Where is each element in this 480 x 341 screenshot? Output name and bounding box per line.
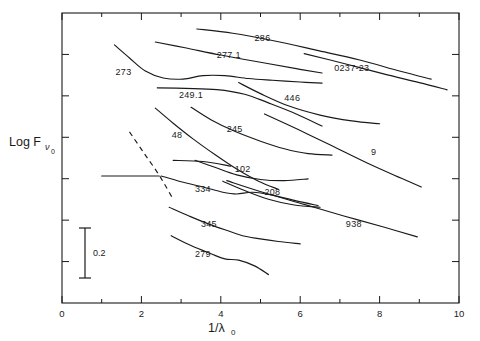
x-axis-label-main: 1/λ [208,321,225,335]
x-tick-label: 6 [298,308,303,319]
scale-bar: 0.2 [79,228,106,278]
curve-48 [155,108,278,189]
curve-label-446: 446 [284,93,300,103]
curve-label-938: 938 [346,219,362,229]
curves-group [102,29,447,275]
curve-label-273: 273 [116,67,132,77]
curve-label-334: 334 [195,184,211,194]
curve-labels-group: 2860237-23277.1273249.144624548910233420… [116,33,377,260]
x-tick-labels: 0246810 [59,308,464,319]
curve-345 [169,207,300,244]
curve-label-279: 279 [195,249,211,259]
x-tick-label: 8 [377,308,382,319]
y-axis-label-sub-zero: 0 [51,148,55,155]
curve-label-9: 9 [371,147,376,157]
curve-label-345: 345 [201,219,217,229]
y-axis-label: Log F ν 0 [9,135,55,155]
y-axis-label-main: Log F [9,135,41,149]
x-tick-label: 4 [218,308,223,319]
curve-label-286: 286 [255,33,271,43]
curve-label-245: 245 [227,124,243,134]
curve-446 [239,83,380,124]
curve-label-102: 102 [235,164,251,174]
curve-102 [195,160,308,180]
y-axis-label-sub-nu: ν [45,142,50,152]
curve-938 [227,181,418,237]
curve-unlabeled-dashed [129,132,173,199]
curve-279 [171,236,268,275]
x-axis-label: 1/λ 0 [208,321,236,337]
curve-label-249.1: 249.1 [179,90,203,100]
x-tick-label: 2 [139,308,144,319]
curve-label-277.1: 277.1 [217,50,241,60]
plot-frame [62,13,459,303]
curve-245 [191,107,332,155]
x-axis-label-sub: 0 [231,328,236,337]
curve-label-0237-23: 0237-23 [334,63,369,73]
curve-0237-23 [304,54,447,90]
x-tick-label: 10 [454,308,465,319]
scale-bar-label: 0.2 [93,248,106,258]
curve-9 [264,114,421,187]
curve-label-48: 48 [172,130,183,140]
curve-label-208: 208 [264,187,280,197]
axis-ticks [62,13,459,303]
plot-svg: 0246810 2860237-23277.1273249.1446245489… [0,0,480,341]
x-tick-label: 0 [59,308,64,319]
figure-container: 0246810 2860237-23277.1273249.1446245489… [0,0,480,341]
